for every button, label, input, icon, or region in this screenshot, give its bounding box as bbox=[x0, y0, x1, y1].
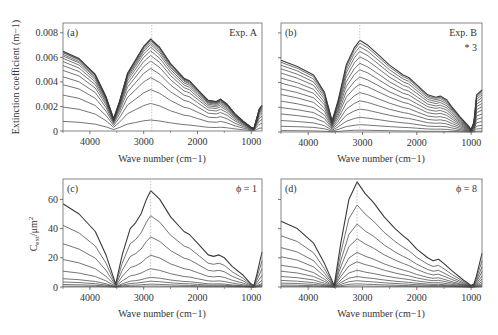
panel-c: 40003000200010000204060 (c) ϕ = 1 Wave n… bbox=[27, 179, 262, 320]
x-tick-label: 2000 bbox=[407, 137, 427, 148]
spectrum-line bbox=[281, 117, 482, 131]
y-tick-label: 0 bbox=[53, 126, 58, 137]
y-tick-label: 0.006 bbox=[36, 52, 59, 63]
x-tick-label: 2000 bbox=[187, 136, 207, 147]
panel-b-xlabel: Wave number (cm−1) bbox=[337, 153, 425, 165]
panel-d-curves bbox=[281, 182, 482, 287]
panel-b-curves bbox=[281, 40, 482, 132]
spectrum-line bbox=[281, 182, 482, 286]
panel-c-xlabel: Wave number (cm−1) bbox=[118, 308, 206, 320]
panel-c-curves bbox=[63, 191, 262, 287]
panel-d-xlabel: Wave number (cm−1) bbox=[337, 308, 425, 320]
panel-b-label: (b) bbox=[285, 27, 297, 39]
spectrum-line bbox=[281, 205, 482, 286]
x-tick-label: 2000 bbox=[187, 292, 207, 303]
panel-a: 400030002000100000.0020.0040.0060.008 (a… bbox=[10, 20, 262, 165]
x-tick-label: 1000 bbox=[241, 292, 261, 303]
panel-a-xlabel: Wave number (cm−1) bbox=[118, 153, 206, 165]
panel-c-label: (c) bbox=[67, 183, 78, 195]
panel-a-annotation: Exp. A bbox=[229, 27, 258, 38]
panel-d-annotation: ϕ = 8 bbox=[456, 183, 477, 194]
y-tick-label: 0.008 bbox=[36, 27, 59, 38]
x-tick-label: 1000 bbox=[461, 137, 481, 148]
x-tick-label: 3000 bbox=[352, 292, 372, 303]
panel-a-ylabel: Extinction coefficient (m−1) bbox=[10, 20, 22, 134]
x-tick-label: 4000 bbox=[298, 137, 318, 148]
panel-a-label: (a) bbox=[67, 27, 78, 39]
panel-b: 4000300020001000 (b) Exp. B * 3 Wave num… bbox=[278, 23, 482, 165]
spectrum-line bbox=[63, 56, 262, 130]
spectrum-line bbox=[281, 101, 482, 131]
x-tick-label: 1000 bbox=[241, 136, 261, 147]
panel-a-curves bbox=[63, 39, 262, 131]
panel-c-annotation: ϕ = 1 bbox=[236, 183, 257, 194]
x-tick-label: 3000 bbox=[134, 136, 154, 147]
y-tick-label: 20 bbox=[48, 252, 58, 263]
x-tick-label: 3000 bbox=[134, 292, 154, 303]
panel-c-frame bbox=[63, 179, 262, 287]
panel-d-label: (d) bbox=[285, 183, 297, 195]
y-tick-label: 0 bbox=[53, 282, 58, 293]
spectrum-line bbox=[63, 216, 262, 286]
x-tick-label: 4000 bbox=[298, 292, 318, 303]
spectrum-line bbox=[63, 43, 262, 129]
x-tick-label: 1000 bbox=[461, 292, 481, 303]
figure: 400030002000100000.0020.0040.0060.008 (a… bbox=[0, 0, 498, 335]
y-tick-label: 40 bbox=[48, 223, 58, 234]
x-tick-label: 3000 bbox=[352, 137, 372, 148]
spectrum-line bbox=[281, 40, 482, 129]
panel-d-ticks: 4000300020001000 bbox=[278, 199, 481, 303]
y-tick-label: 60 bbox=[48, 194, 58, 205]
panel-c-ylabel: Cext/μm2 bbox=[27, 216, 41, 251]
spectrum-line bbox=[281, 224, 482, 286]
panel-d: 4000300020001000 (d) ϕ = 8 Wave number (… bbox=[278, 179, 482, 320]
x-tick-label: 4000 bbox=[80, 136, 100, 147]
x-tick-label: 2000 bbox=[407, 292, 427, 303]
y-tick-label: 0.004 bbox=[36, 76, 59, 87]
x-tick-label: 4000 bbox=[80, 292, 100, 303]
panel-b-annotation: Exp. B bbox=[449, 27, 477, 38]
panel-b-annotation-2: * 3 bbox=[465, 42, 478, 53]
y-tick-label: 0.002 bbox=[36, 101, 59, 112]
